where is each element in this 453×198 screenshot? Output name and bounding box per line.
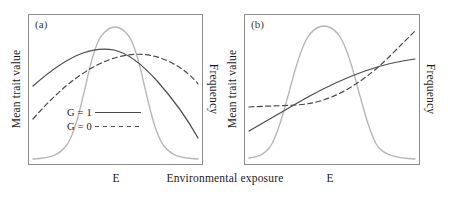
legend: G = 1 G = 0	[67, 106, 141, 132]
panel-b-x-tick-label: E	[326, 172, 333, 184]
panel-b-plot	[244, 14, 420, 165]
panel-b-y2-axis-label: Frequency	[425, 64, 437, 114]
panel-b-curve-g0	[249, 31, 415, 107]
panel-a-y2-axis-label: Frequency	[208, 64, 220, 114]
legend-swatch-dashed-icon	[95, 126, 141, 127]
legend-item-g0: G = 0	[67, 120, 141, 132]
panel-a-y-axis-label: Mean trait value	[10, 50, 22, 129]
panel-b-y-axis-label: Mean trait value	[226, 50, 238, 129]
panel-a-x-tick-label: E	[112, 172, 119, 184]
panel-a-plot	[28, 14, 203, 165]
legend-item-g1: G = 1	[67, 106, 141, 118]
legend-label-g1: G = 1	[67, 107, 92, 118]
panel-b: (b)	[244, 14, 420, 165]
panel-a-tag: (a)	[35, 18, 48, 30]
panel-b-frequency-curve	[249, 26, 415, 159]
panel-b-curve-g1	[249, 59, 415, 131]
legend-swatch-solid-icon	[95, 112, 141, 113]
shared-x-axis-label: Environmental exposure	[166, 172, 283, 184]
panel-a: (a)	[28, 14, 203, 165]
panel-b-tag: (b)	[251, 18, 264, 30]
legend-label-g0: G = 0	[67, 121, 92, 132]
figure-container: (a) (b) Mean trait value Frequency Mean …	[0, 0, 453, 198]
